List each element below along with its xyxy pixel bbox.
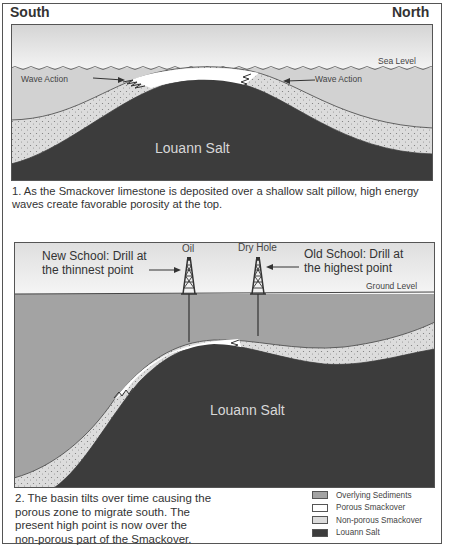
oil-label: Oil xyxy=(182,243,194,254)
dry-hole-label: Dry Hole xyxy=(238,242,277,253)
caption-panel-1: 1. As the Smackover limestone is deposit… xyxy=(12,185,437,211)
direction-south-label: South xyxy=(10,4,50,20)
ground-level-label: Ground Level xyxy=(366,281,417,291)
swatch-overlying-sediments xyxy=(312,491,328,499)
legend-item-porous-smackover: Porous Smackover xyxy=(312,502,442,515)
salt-label-panel-2: Louann Salt xyxy=(210,402,285,418)
new-school-label: New School: Drill at the thinnest point xyxy=(42,249,147,277)
legend: Overlying Sediments Porous Smackover Non… xyxy=(312,489,442,539)
salt-label-panel-1: Louann Salt xyxy=(155,140,230,156)
swatch-non-porous-smackover xyxy=(312,516,328,524)
legend-item-overlying-sediments: Overlying Sediments xyxy=(312,489,442,502)
panel-1-cross-section xyxy=(11,24,433,181)
wave-action-right-label: Wave Action xyxy=(315,74,362,84)
wave-action-left-label: Wave Action xyxy=(21,74,68,84)
legend-item-non-porous-smackover: Non-porous Smackover xyxy=(312,514,442,527)
old-school-label: Old School: Drill at the highest point xyxy=(304,247,403,275)
direction-north-label: North xyxy=(392,4,429,20)
panel-2-cross-section xyxy=(14,242,435,488)
caption-panel-2: 2. The basin tilts over time causing the… xyxy=(15,492,230,546)
sea-level-label: Sea Level xyxy=(378,56,416,66)
swatch-porous-smackover xyxy=(312,504,328,512)
swatch-louann-salt xyxy=(312,529,328,537)
sky-region xyxy=(11,24,433,68)
legend-item-louann-salt: Louann Salt xyxy=(312,527,442,540)
